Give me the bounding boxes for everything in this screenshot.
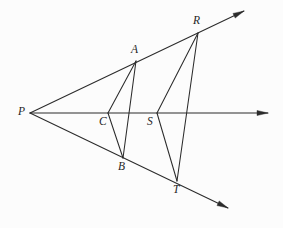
- segment-AB: [123, 61, 136, 158]
- upper-ray: [30, 11, 244, 113]
- horizontal-ray-arrowhead-icon: [257, 110, 268, 115]
- geometry-figure: PARCSBT: [0, 0, 283, 228]
- figure-canvas: [0, 0, 283, 228]
- rays-group: [30, 11, 268, 208]
- point-label-a: A: [131, 44, 138, 56]
- upper-ray-arrowhead-icon: [233, 11, 244, 18]
- point-label-r: R: [193, 15, 200, 27]
- point-label-p: P: [18, 106, 25, 118]
- point-label-t: T: [173, 184, 179, 196]
- segment-ST: [157, 113, 177, 181]
- point-label-b: B: [118, 161, 125, 173]
- lower-ray-arrowhead-icon: [217, 201, 228, 208]
- lower-ray: [30, 113, 228, 208]
- point-label-c: C: [99, 116, 107, 128]
- segment-RT: [177, 33, 198, 181]
- point-label-s: S: [147, 116, 153, 128]
- segments-group: [108, 33, 198, 181]
